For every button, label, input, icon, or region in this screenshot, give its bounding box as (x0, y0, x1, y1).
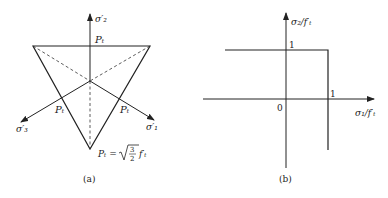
formula-lhs: Pₜ = (97, 149, 117, 159)
triangle-yield-surface (33, 46, 150, 149)
sigma3-label: σ′₃ (16, 124, 28, 134)
y-axis-label: σ₂/f′ₜ (291, 17, 312, 27)
sqrt-sign (119, 145, 139, 160)
sqrt-numerator: 3 (130, 146, 134, 154)
panel-a-failure-surface: σ′₂ σ′₁ σ′₃ Pₜ Pₜ Pₜ Pₜ = 3 2 f′ₜ (a) (16, 14, 158, 184)
edge-label-top: Pₜ (94, 34, 105, 45)
caption-b: (b) (279, 174, 292, 184)
dashed-median-left (33, 46, 90, 81)
caption-a: (a) (83, 174, 95, 184)
panel-b-rankine-criterion: σ₂/f′ₜ σ₁/f′ₜ 0 1 1 (b) (203, 13, 376, 184)
edge-label-right: Pₜ (119, 104, 130, 115)
y-tick-1: 1 (289, 40, 295, 50)
pt-formula: Pₜ = 3 2 f′ₜ (97, 145, 147, 163)
figure: σ′₂ σ′₁ σ′₃ Pₜ Pₜ Pₜ Pₜ = 3 2 f′ₜ (a) σ₂… (0, 0, 388, 198)
sigma2-label: σ′₂ (95, 14, 107, 24)
formula-rhs: f′ₜ (138, 149, 147, 159)
dashed-median-right (90, 46, 150, 81)
origin-label: 0 (277, 103, 283, 113)
tension-cutoff-boundary (225, 50, 328, 150)
x-tick-1: 1 (330, 89, 336, 99)
x-axis-label: σ₁/f′ₜ (355, 108, 376, 118)
sqrt-denominator: 2 (130, 155, 134, 163)
edge-label-left: Pₜ (54, 104, 65, 115)
sigma1-label: σ′₁ (146, 122, 158, 132)
